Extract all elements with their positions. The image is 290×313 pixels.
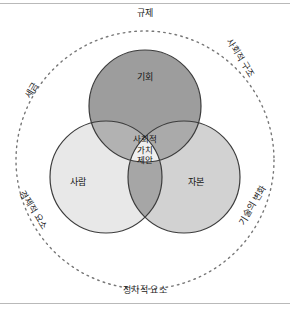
outer-label-regulation: 규제 [0, 8, 290, 19]
center-label-line-1: 사회적 [115, 134, 175, 145]
center-label-social-value-proposition: 사회적 가치 제안 [115, 134, 175, 166]
circle-label-people: 사람 [48, 177, 108, 188]
circle-label-opportunity: 기회 [110, 72, 180, 83]
figure-root: 규제 사회적 구조 기술의 변화 정치적 요소 경제적 요소 세금 기회 사람 … [0, 0, 290, 313]
outer-label-political-factors: 정치적 요소 [0, 285, 290, 296]
center-label-line-2: 가치 [115, 145, 175, 156]
circle-label-capital: 자본 [166, 177, 226, 188]
center-label-line-3: 제안 [115, 155, 175, 166]
